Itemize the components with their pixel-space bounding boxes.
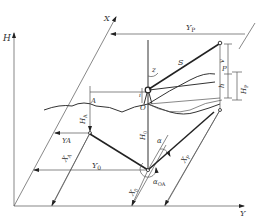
yp-label: YP <box>186 23 195 33</box>
terrain-lower <box>148 100 222 112</box>
y-axis: Y <box>14 206 246 218</box>
y-axis-label: Y <box>240 209 246 218</box>
h-axis-label: H <box>2 33 11 43</box>
alpha-label: α <box>157 137 162 145</box>
yp-dimension: YP <box>111 23 245 34</box>
xa-label: XA <box>60 151 73 164</box>
h0-label: H0 <box>139 131 148 141</box>
i-label: i <box>139 91 141 98</box>
h-label: h <box>218 83 226 88</box>
x0-projection <box>132 145 166 206</box>
v-label: v <box>218 59 226 63</box>
y0-label: Y0 <box>92 161 101 171</box>
p-label: P <box>221 65 227 73</box>
ha-label: HA <box>79 114 88 125</box>
s-label: S <box>178 58 184 67</box>
h-axis: H <box>2 33 14 206</box>
x-axis-label: X <box>103 14 110 23</box>
ya-label: YA <box>62 137 71 145</box>
ground-line <box>149 98 220 104</box>
point-p-ground <box>219 109 222 112</box>
o-label: O <box>140 104 146 112</box>
z-label: z <box>151 66 156 74</box>
x-axis: X <box>14 14 116 206</box>
xp-arrow <box>165 110 220 205</box>
slope-distance-line <box>149 44 219 89</box>
alpha-oa-label: αOA <box>153 178 166 187</box>
survey-diagram: H Y X YP Y0 YA XA X0 XP HA A <box>0 0 266 221</box>
yp-end-tick <box>239 23 255 49</box>
hp-label: HP <box>240 84 249 95</box>
target-point <box>218 41 222 45</box>
xp-label: XP <box>179 152 192 165</box>
